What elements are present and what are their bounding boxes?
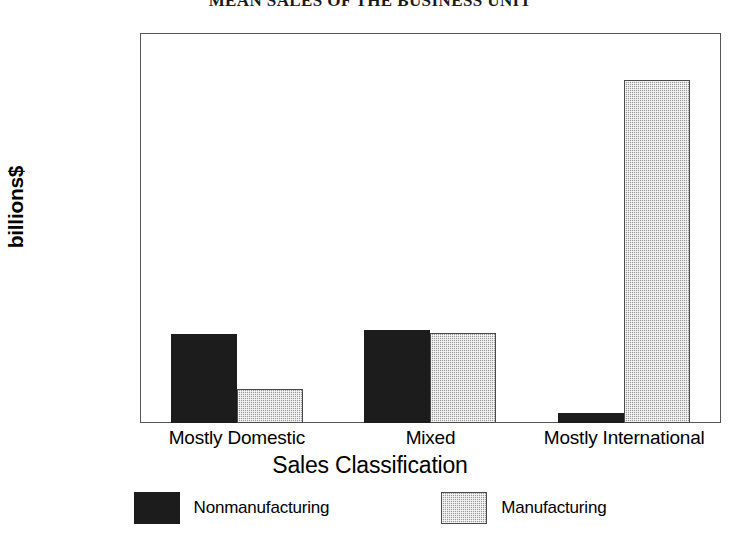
x-axis-title: Sales Classification bbox=[0, 452, 740, 479]
legend-item[interactable]: Manufacturing bbox=[441, 492, 606, 524]
bar-manufacturing[interactable] bbox=[430, 333, 496, 423]
chart-legend: NonmanufacturingManufacturing bbox=[0, 492, 740, 524]
legend-label: Nonmanufacturing bbox=[194, 498, 330, 518]
x-axis-tick-label: Mostly International bbox=[527, 427, 721, 449]
bar-nonmanufacturing[interactable] bbox=[171, 334, 237, 423]
legend-label: Manufacturing bbox=[501, 498, 606, 518]
bar-group bbox=[527, 33, 721, 423]
bar-group bbox=[334, 33, 528, 423]
bar-manufacturing[interactable] bbox=[237, 389, 303, 423]
x-axis-tick-label: Mixed bbox=[334, 427, 528, 449]
plot-area bbox=[140, 33, 721, 423]
bar-group bbox=[140, 33, 334, 423]
legend-swatch-icon bbox=[441, 492, 487, 524]
x-axis-tick-label: Mostly Domestic bbox=[140, 427, 334, 449]
legend-swatch-icon bbox=[134, 492, 180, 524]
bar-nonmanufacturing[interactable] bbox=[364, 330, 430, 423]
bar-nonmanufacturing[interactable] bbox=[558, 413, 624, 423]
bar-manufacturing[interactable] bbox=[624, 80, 690, 423]
legend-item[interactable]: Nonmanufacturing bbox=[134, 492, 330, 524]
